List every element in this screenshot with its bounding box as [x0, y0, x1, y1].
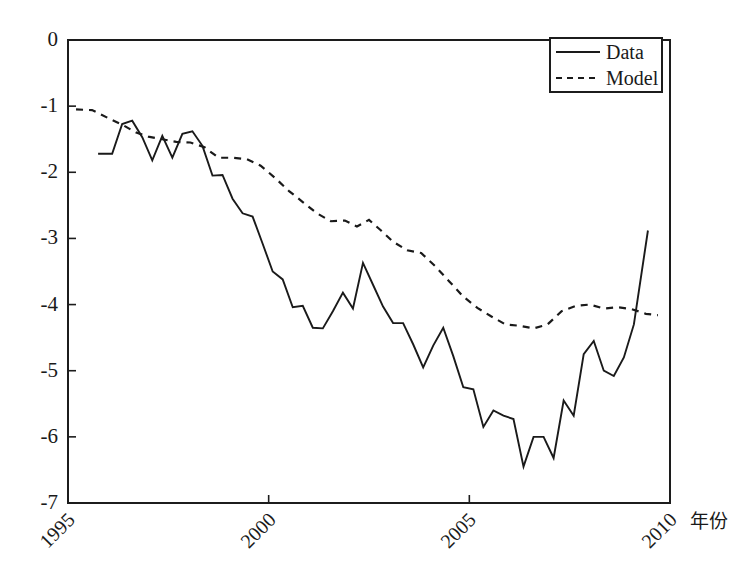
- x-tick-marks: [269, 495, 470, 503]
- legend-item-data: Data: [551, 39, 661, 65]
- y-tick-label: -2: [12, 161, 58, 182]
- y-tick-label: -3: [12, 227, 58, 248]
- chart-legend: Data Model: [549, 37, 663, 93]
- legend-swatch-dashed-icon: [553, 71, 603, 85]
- y-tick-marks: [68, 40, 76, 503]
- legend-label-data: Data: [606, 42, 644, 62]
- y-tick-label: -6: [12, 426, 58, 447]
- y-tick-label: -4: [12, 294, 58, 315]
- y-tick-label: -5: [12, 360, 58, 381]
- x-axis-title: 年份: [690, 506, 728, 533]
- axes-frame: [68, 40, 670, 503]
- legend-swatch-solid-icon: [553, 45, 603, 59]
- axes-border: [68, 40, 670, 503]
- series-line-data: [98, 121, 648, 467]
- legend-item-model: Model: [551, 65, 661, 91]
- y-tick-label: -1: [12, 95, 58, 116]
- chart-figure: 0-1-2-3-4-5-6-7 1995200020052010 年份 Data…: [0, 0, 753, 576]
- series-line-model: [76, 109, 658, 328]
- y-tick-label: 0: [12, 29, 58, 50]
- legend-label-model: Model: [606, 68, 658, 88]
- y-tick-label: -7: [12, 492, 58, 513]
